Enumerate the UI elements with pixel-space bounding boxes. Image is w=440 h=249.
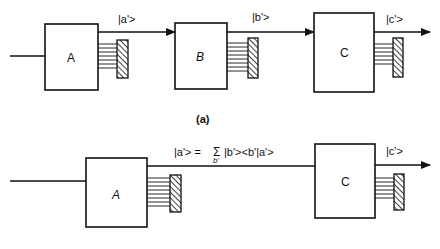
caption-a: (a)	[196, 114, 209, 125]
box-a-b-label: A	[112, 189, 120, 201]
state-label-c-b: |c'>	[386, 146, 403, 157]
box-c-label: C	[340, 47, 349, 59]
detector-comb-b	[227, 43, 248, 71]
state-label-b: |b'>	[252, 12, 270, 23]
hatched-screen-b	[248, 38, 258, 78]
state-label-a: |a'>	[118, 14, 136, 25]
state-label-c: |c'>	[386, 14, 403, 25]
detector-comb-a-b	[147, 178, 170, 206]
hatched-screen-a	[117, 40, 128, 78]
superposition-lhs: |a'> =	[174, 147, 201, 158]
box-a-label: A	[67, 52, 75, 64]
box-b-label: B	[196, 51, 204, 63]
box-c-b-label: C	[341, 176, 350, 188]
sigma-subscript: b'	[213, 157, 219, 165]
hatched-screen-a-b	[170, 175, 181, 212]
detector-comb-c	[374, 44, 393, 64]
diagram-canvas	[0, 0, 440, 249]
detector-comb-a	[98, 44, 117, 68]
detector-comb-c-b	[375, 178, 394, 198]
hatched-screen-c	[393, 38, 403, 77]
hatched-screen-c-b	[394, 174, 404, 210]
superposition-rhs: |b'><b'|a'>	[224, 147, 274, 158]
